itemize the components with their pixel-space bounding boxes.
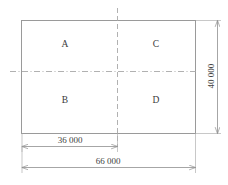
plot-outline-rectangle	[22, 21, 196, 134]
dimension-label-overall-width: 66 000	[94, 157, 123, 166]
technical-drawing-canvas: A C B D 40 000 36 000 66 000	[0, 0, 228, 185]
zone-label-d: D	[152, 96, 159, 106]
zone-label-a: A	[61, 40, 68, 50]
dimension-label-height: 40 000	[207, 62, 216, 91]
zone-label-b: B	[62, 96, 69, 106]
zone-label-c: C	[153, 40, 160, 50]
dimension-label-partial-width: 36 000	[56, 136, 85, 145]
